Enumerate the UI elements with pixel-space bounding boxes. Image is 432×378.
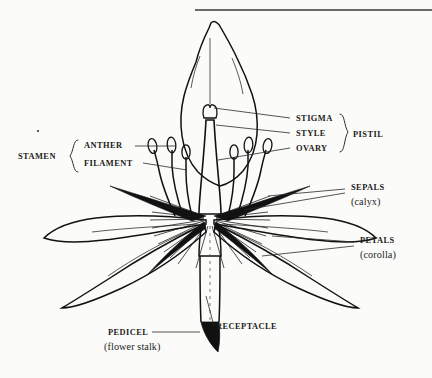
label-pedicel: PEDICEL: [108, 328, 148, 337]
paper-speck: [37, 130, 39, 132]
label-corolla: (corolla): [360, 249, 396, 261]
label-calyx: (calyx): [351, 196, 381, 208]
diagram-canvas: STAMEN ANTHER FILAMENT STIGMA STYLE OVAR…: [0, 0, 432, 378]
label-flower-stalk: (flower stalk): [104, 341, 161, 353]
label-pistil: PISTIL: [353, 130, 383, 139]
flower-diagram-figure: STAMEN ANTHER FILAMENT STIGMA STYLE OVAR…: [0, 0, 432, 378]
label-anther: ANTHER: [84, 141, 123, 150]
label-sepals: SEPALS: [351, 183, 385, 192]
label-petals: PETALS: [360, 236, 395, 245]
label-stigma: STIGMA: [296, 114, 333, 123]
label-style: STYLE: [296, 129, 326, 138]
label-stamen: STAMEN: [18, 152, 56, 161]
label-ovary: OVARY: [296, 144, 328, 153]
label-receptacle: RECEPTACLE: [216, 322, 277, 331]
label-filament: FILAMENT: [84, 159, 133, 168]
